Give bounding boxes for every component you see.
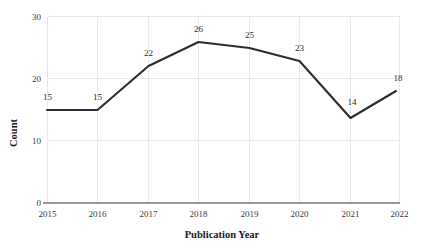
data-label-2020: 23 [295, 43, 305, 53]
y-tick-label-20: 20 [32, 74, 42, 84]
chart-canvas: 30 20 10 0 2015 2016 2017 2018 2019 2020… [0, 0, 427, 247]
x-tick-label-2018: 2018 [190, 209, 209, 219]
data-label-2018: 26 [194, 24, 204, 34]
x-axis-title: Publication Year [185, 229, 260, 240]
data-label-2019: 25 [245, 30, 255, 40]
data-label-2015: 15 [43, 92, 53, 102]
data-label-2017: 22 [144, 48, 153, 58]
x-tick-label-2021: 2021 [342, 209, 360, 219]
data-label-2016: 15 [93, 92, 103, 102]
data-label-2022: 18 [394, 73, 404, 83]
y-tick-label-30: 30 [32, 12, 42, 22]
x-tick-label-2015: 2015 [39, 209, 58, 219]
x-tick-label-2017: 2017 [140, 209, 159, 219]
y-tick-label-10: 10 [32, 136, 42, 146]
y-axis-title: Count [8, 118, 19, 147]
data-label-2021: 14 [348, 97, 358, 107]
x-tick-label-2016: 2016 [89, 209, 108, 219]
x-tick-label-2022: 2022 [391, 209, 409, 219]
x-tick-label-2020: 2020 [291, 209, 310, 219]
y-tick-label-0: 0 [37, 198, 42, 208]
chart-background [0, 0, 427, 247]
line-chart-figure: 30 20 10 0 2015 2016 2017 2018 2019 2020… [0, 0, 427, 247]
x-tick-label-2019: 2019 [241, 209, 260, 219]
